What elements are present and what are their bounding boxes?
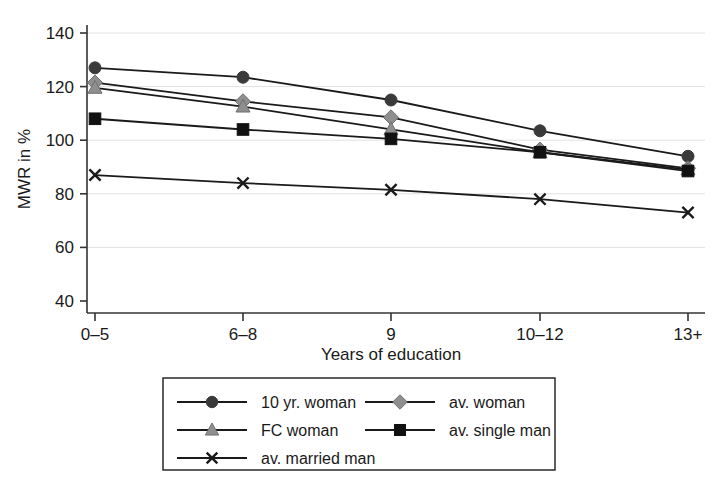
legend-label: 10 yr. woman <box>261 394 356 411</box>
data-point-marker <box>682 165 694 177</box>
chart-legend: 10 yr. womanav. womanFC womanav. single … <box>163 378 555 470</box>
data-point-marker <box>385 133 397 145</box>
data-point-marker <box>89 113 101 125</box>
data-point-marker <box>534 146 546 158</box>
legend-label: av. woman <box>449 394 525 411</box>
legend-marker-circle <box>206 396 217 407</box>
y-tick-label: 120 <box>46 78 74 97</box>
x-tick-label: 13+ <box>674 325 703 344</box>
legend-marker-square <box>394 424 405 435</box>
x-tick-label: 6–8 <box>229 325 257 344</box>
legend-label: av. married man <box>261 450 375 467</box>
y-tick-label: 100 <box>46 131 74 150</box>
y-tick-label: 40 <box>55 292 74 311</box>
chart-figure: 406080100120140 0–56–8910–1213+ MWR in %… <box>0 0 721 484</box>
x-axis-title: Years of education <box>321 345 461 364</box>
x-tick-label: 10–12 <box>516 325 563 344</box>
legend-label: av. single man <box>449 422 551 439</box>
y-tick-label: 80 <box>55 185 74 204</box>
x-tick-label: 0–5 <box>81 325 109 344</box>
y-tick-label: 140 <box>46 24 74 43</box>
data-point-marker <box>385 94 397 106</box>
data-point-marker <box>237 124 249 136</box>
x-tick-label: 9 <box>386 325 395 344</box>
legend-label: FC woman <box>261 422 338 439</box>
data-point-marker <box>89 62 101 74</box>
y-tick-label: 60 <box>55 238 74 257</box>
line-chart: 406080100120140 0–56–8910–1213+ MWR in %… <box>0 0 721 484</box>
data-point-marker <box>237 71 249 83</box>
y-axis-title: MWR in % <box>15 129 34 209</box>
data-point-marker <box>534 125 546 137</box>
